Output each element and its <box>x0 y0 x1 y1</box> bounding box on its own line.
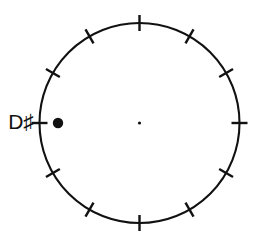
center-dot <box>138 121 141 124</box>
tick-mark-7 <box>86 203 94 217</box>
tick-mark-10 <box>46 69 60 77</box>
tick-mark-5 <box>186 203 194 217</box>
pitch-label-group: D♯ <box>8 110 34 133</box>
pitch-marker-group <box>53 118 63 128</box>
tick-mark-11 <box>86 29 94 43</box>
pitch-marker-d-sharp <box>53 118 63 128</box>
pitch-class-circle-diagram: D♯ <box>0 0 256 242</box>
tick-mark-8 <box>46 169 60 177</box>
tick-mark-4 <box>219 169 233 177</box>
tick-mark-1 <box>186 29 194 43</box>
tick-mark-2 <box>219 69 233 77</box>
pitch-label-d-sharp: D♯ <box>8 110 34 133</box>
pitch-circle-canvas: D♯ <box>0 0 256 242</box>
